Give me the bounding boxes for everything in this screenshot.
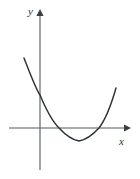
y-axis-arrow-icon: [36, 9, 43, 16]
figure-root: x y: [0, 0, 140, 179]
y-axis-label: y: [27, 5, 33, 17]
x-axis-label: x: [118, 135, 124, 147]
x-axis-arrow-icon: [124, 124, 131, 131]
parabola-graph: x y: [0, 0, 140, 179]
